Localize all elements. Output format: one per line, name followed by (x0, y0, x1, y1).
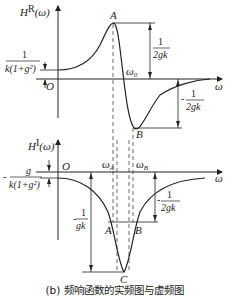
svg-text:1: 1 (22, 49, 27, 60)
half-fraction: - 1 2gk (157, 189, 180, 213)
svg-text:1: 1 (158, 36, 163, 47)
imag-x-axis-label: ω (215, 172, 223, 184)
real-offset-fraction: 1 k(1+g²) (5, 49, 40, 75)
arrow-down-icon (43, 64, 47, 70)
omega0-label: ω0 (126, 65, 138, 79)
arrow-down-icon (47, 165, 51, 171)
svg-text:1: 1 (191, 88, 196, 99)
arrow-up-icon (153, 173, 157, 179)
svg-text:2gk: 2gk (161, 202, 176, 213)
omega-b-label: ωB (136, 158, 149, 172)
svg-text:1: 1 (167, 189, 172, 200)
arrow-up-icon (89, 173, 93, 179)
arrow-down-icon (89, 265, 93, 271)
svg-text:2gk: 2gk (186, 101, 201, 112)
point-a-label: A (104, 224, 112, 236)
real-x-axis-label: ω (215, 80, 223, 92)
svg-text:1: 1 (81, 207, 86, 218)
imag-origin-label: O (62, 160, 70, 172)
arrow-up-icon (47, 178, 51, 184)
arrow-down-icon (153, 215, 157, 221)
figure-caption: (b) 频响函数的实频图与虚频图 (0, 282, 229, 297)
svg-text:-: - (181, 93, 184, 104)
min-fraction: - 1 gk (73, 207, 88, 231)
point-b-label: B (135, 224, 142, 236)
imag-y-axis-label: HI(ω) (27, 137, 55, 153)
peak-label: A (109, 9, 117, 21)
real-y-axis-label: HR(ω) (19, 3, 50, 19)
frequency-response-diagram: HR(ω) A B O ω ω0 1 k(1+g²) 1 2gk - 1 2gk (0, 0, 229, 301)
real-origin-label: O (46, 80, 54, 92)
real-part-plot: HR(ω) A B O ω ω0 1 k(1+g²) 1 2gk - 1 2gk (5, 3, 223, 140)
arrow-up-icon (176, 80, 180, 86)
imag-offset-fraction: - g k(1+g²) (3, 165, 42, 191)
svg-text:2gk: 2gk (153, 49, 168, 60)
arrow-down-icon (176, 121, 180, 127)
trough-label: B (136, 128, 143, 140)
trough-fraction: - 1 2gk (181, 88, 204, 112)
svg-text:-: - (3, 171, 6, 182)
svg-text:-: - (157, 194, 160, 205)
arrow-down-icon (148, 72, 152, 78)
svg-text:k(1+g²): k(1+g²) (5, 63, 37, 75)
arrow-up-icon (148, 24, 152, 30)
svg-text:g: g (26, 165, 31, 176)
svg-text:gk: gk (76, 220, 86, 231)
svg-text:k(1+g²): k(1+g²) (9, 179, 41, 191)
peak-fraction: 1 2gk (153, 36, 170, 60)
